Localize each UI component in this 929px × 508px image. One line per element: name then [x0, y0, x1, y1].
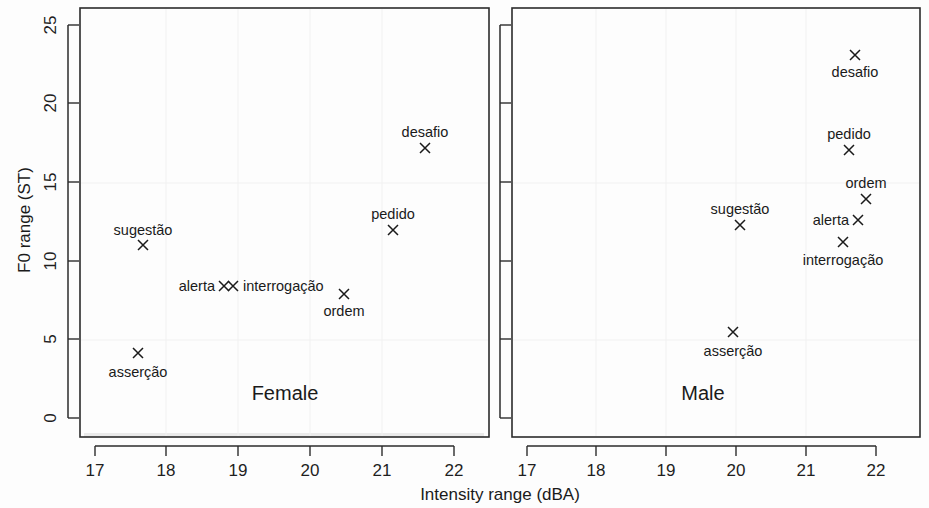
- point-label: sugestão: [711, 201, 770, 217]
- point-label: ordem: [845, 175, 886, 191]
- data-point-interrogacao-female[interactable]: interrogação: [228, 278, 324, 294]
- data-point-desafio-male[interactable]: desafio: [832, 50, 879, 80]
- y-tick-label: 20: [41, 94, 60, 113]
- figure-canvas: 25 20 15 10 5 0 17 18 19 20: [0, 0, 929, 508]
- point-label: desafio: [832, 64, 879, 80]
- x-tick-label: 19: [229, 461, 248, 480]
- y-axis-title: F0 range (ST): [15, 167, 34, 273]
- marker-x-icon: [853, 215, 863, 225]
- data-point-pedido-male[interactable]: pedido: [827, 126, 871, 155]
- y-tick-label: 15: [41, 173, 60, 192]
- marker-x-icon: [838, 237, 848, 247]
- panel-male: 17 18 19 20 21 22 Male asserção suges: [500, 8, 920, 480]
- marker-x-icon: [844, 145, 854, 155]
- data-point-sugestao-female[interactable]: sugestão: [114, 222, 173, 250]
- data-point-alerta-male[interactable]: alerta: [813, 212, 863, 228]
- data-point-sugestao-male[interactable]: sugestão: [711, 201, 770, 230]
- marker-x-icon: [138, 240, 148, 250]
- point-label: pedido: [371, 206, 415, 222]
- panel-label-female: Female: [252, 382, 319, 404]
- marker-x-icon: [861, 194, 871, 204]
- data-point-interrogacao-male[interactable]: interrogação: [803, 237, 884, 268]
- x-tick-label: 20: [727, 461, 746, 480]
- x-axis-title: Intensity range (dBA): [420, 485, 580, 504]
- marker-x-icon: [420, 143, 430, 153]
- x-axis-ticks-female: [95, 446, 454, 456]
- y-tick-label: 25: [41, 16, 60, 35]
- point-label: pedido: [827, 126, 871, 142]
- point-label: desafio: [402, 124, 449, 140]
- y-axis-tick-labels: 25 20 15 10 5 0: [41, 16, 60, 423]
- data-point-alerta-female[interactable]: alerta: [179, 278, 229, 294]
- y-axis-ticks-male: [500, 25, 511, 418]
- y-axis-ticks-female: [68, 25, 79, 418]
- marker-x-icon: [228, 281, 238, 291]
- x-tick-label: 22: [867, 461, 886, 480]
- point-label: alerta: [813, 212, 850, 228]
- x-tick-label: 21: [373, 461, 392, 480]
- marker-x-icon: [850, 50, 860, 60]
- point-label: ordem: [323, 303, 364, 319]
- data-point-desafio-female[interactable]: desafio: [402, 124, 449, 153]
- x-tick-label: 18: [587, 461, 606, 480]
- point-label: interrogação: [243, 278, 324, 294]
- data-point-ordem-male[interactable]: ordem: [845, 175, 886, 204]
- marker-x-icon: [219, 281, 229, 291]
- panel-female: 25 20 15 10 5 0 17 18 19 20: [41, 8, 489, 480]
- marker-x-icon: [388, 225, 398, 235]
- x-axis-tick-labels-female: 17 18 19 20 21 22: [86, 461, 464, 480]
- point-label: asserção: [704, 343, 763, 359]
- x-tick-label: 17: [518, 461, 537, 480]
- data-point-ordem-female[interactable]: ordem: [323, 289, 364, 319]
- x-tick-label: 19: [657, 461, 676, 480]
- data-point-pedido-female[interactable]: pedido: [371, 206, 415, 235]
- y-tick-label: 10: [41, 252, 60, 271]
- y-tick-label: 5: [41, 334, 60, 343]
- marker-x-icon: [133, 348, 143, 358]
- x-tick-label: 20: [301, 461, 320, 480]
- x-axis-tick-labels-male: 17 18 19 20 21 22: [518, 461, 886, 480]
- data-points-male: asserção sugestão interrogação alerta: [704, 50, 887, 359]
- point-label: interrogação: [803, 252, 884, 268]
- x-tick-label: 18: [157, 461, 176, 480]
- marker-x-icon: [339, 289, 349, 299]
- point-label: asserção: [109, 364, 168, 380]
- y-tick-label: 0: [41, 413, 60, 422]
- point-label: sugestão: [114, 222, 173, 238]
- panel-label-male: Male: [681, 382, 724, 404]
- data-point-assercao-female[interactable]: asserção: [109, 348, 168, 380]
- data-points-female: sugestão asserção alerta interrogação: [109, 124, 449, 380]
- x-tick-label: 22: [445, 461, 464, 480]
- x-axis-ticks-male: [527, 446, 876, 456]
- x-tick-label: 21: [797, 461, 816, 480]
- data-point-assercao-male[interactable]: asserção: [704, 327, 763, 359]
- x-tick-label: 17: [86, 461, 105, 480]
- point-label: alerta: [179, 278, 216, 294]
- scatter-plot-svg: 25 20 15 10 5 0 17 18 19 20: [0, 0, 929, 508]
